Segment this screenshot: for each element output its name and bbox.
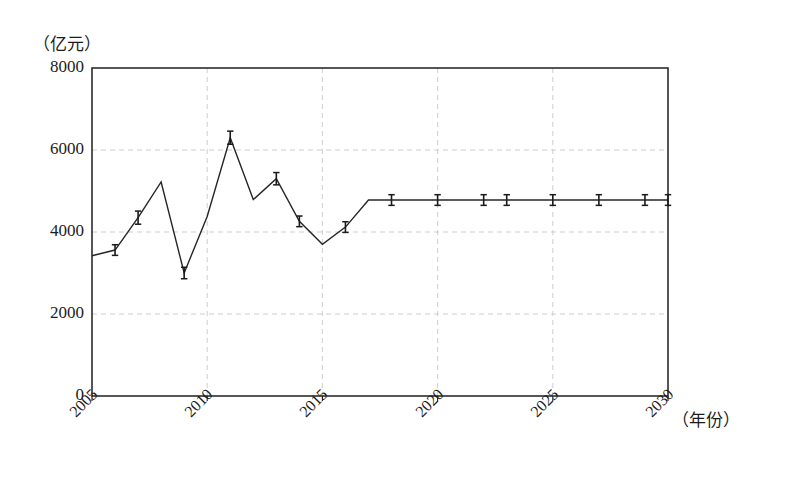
chart-figure: （亿元） （年份） 02000400060008000 200520102015… [0, 0, 791, 480]
x-axis-unit-label: （年份） [672, 406, 740, 431]
y-tick-label: 2000 [50, 303, 84, 323]
y-tick-label: 6000 [50, 139, 84, 159]
error-bar [342, 222, 348, 233]
gridlines-group [92, 68, 668, 396]
error-bars-group [112, 131, 671, 279]
y-tick-label: 4000 [50, 221, 84, 241]
data-series-line [92, 138, 668, 273]
data-line-group [92, 138, 668, 273]
y-tick-label: 8000 [50, 57, 84, 77]
y-axis-unit-label: （亿元） [33, 30, 101, 55]
